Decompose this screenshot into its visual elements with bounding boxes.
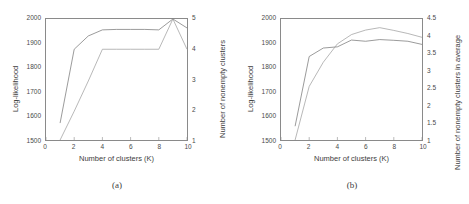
y-tick-label-right: 4.5 (427, 15, 436, 22)
y-tick-label-right: 3 (192, 76, 196, 83)
y-axis-label-left-a: Log-likelihood (11, 66, 20, 112)
y-tick-label-left: 1900 (244, 39, 276, 46)
plot-area-b (280, 18, 423, 141)
y-tick-label-right: 1 (427, 138, 431, 145)
y-tick-label-right: 5 (192, 15, 196, 22)
plot-area-a (45, 18, 188, 141)
y-tick-label-left: 1500 (244, 138, 276, 145)
figure-two-panel-charts: 024681015001600170018001900200012345 Log… (0, 0, 469, 204)
y-tick-label-right: 4 (427, 32, 431, 39)
plot-lines-b (281, 19, 422, 140)
x-tick-label: 4 (100, 144, 104, 151)
y-axis-label-right-b: Number of nonempty clusters in average (453, 35, 462, 170)
y-tick-label-left: 1600 (244, 113, 276, 120)
x-tick-label: 6 (129, 144, 133, 151)
caption-a: (a) (0, 180, 234, 190)
y-tick-label-left: 1500 (9, 138, 41, 145)
series-line-log-likelihood (295, 40, 422, 127)
chart-panel-a: 024681015001600170018001900200012345 Log… (0, 0, 234, 204)
y-tick-label-left: 2000 (244, 15, 276, 22)
y-tick-label-right: 2.5 (427, 85, 436, 92)
y-tick-label-right: 1.5 (427, 120, 436, 127)
y-tick-label-right: 3 (427, 67, 431, 74)
y-axis-label-left-b: Log-likelihood (246, 66, 255, 112)
chart-panel-b: 024681015001600170018001900200011.522.53… (235, 0, 469, 204)
x-tick-label: 0 (43, 144, 47, 151)
y-axis-label-right-a: Number of nonempty clusters (218, 40, 227, 138)
x-tick-label: 8 (393, 144, 397, 151)
y-tick-label-right: 2 (192, 107, 196, 114)
x-tick-label: 8 (158, 144, 162, 151)
y-tick-label-right: 3.5 (427, 50, 436, 57)
x-tick-label: 2 (72, 144, 76, 151)
y-tick-label-right: 1 (192, 138, 196, 145)
x-tick-label: 0 (278, 144, 282, 151)
x-tick-label: 10 (184, 144, 191, 151)
series-line-log-likelihood (60, 19, 187, 123)
y-tick-label-right: 4 (192, 46, 196, 53)
series-line-nonempty-clusters (60, 19, 187, 140)
x-tick-label: 4 (335, 144, 339, 151)
x-tick-label: 10 (419, 144, 426, 151)
y-tick-label-left: 1600 (9, 113, 41, 120)
y-tick-label-right: 2 (427, 103, 431, 110)
y-tick-label-left: 1900 (9, 39, 41, 46)
caption-b: (b) (235, 180, 469, 190)
x-tick-label: 2 (307, 144, 311, 151)
y-tick-label-left: 2000 (9, 15, 41, 22)
x-axis-label-a: Number of clusters (K) (45, 154, 188, 163)
x-tick-label: 6 (364, 144, 368, 151)
plot-lines-a (46, 19, 187, 140)
x-axis-label-b: Number of clusters (K) (280, 154, 423, 163)
series-line-nonempty-clusters (295, 28, 422, 140)
